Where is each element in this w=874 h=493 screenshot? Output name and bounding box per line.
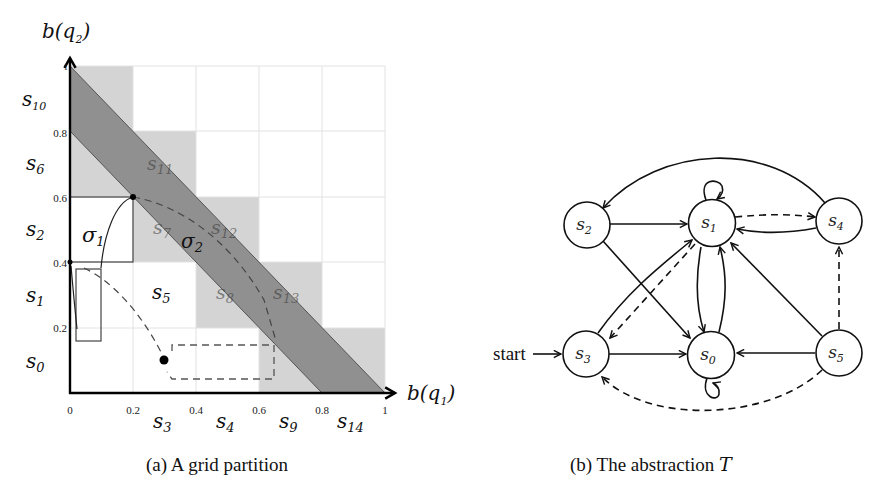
caption-b: (b) The abstraction T	[570, 453, 733, 476]
sigma1-region	[70, 197, 133, 262]
y-tick-0.4: 0.4	[53, 257, 67, 269]
label-s6: s6	[26, 151, 45, 177]
target-region	[167, 345, 274, 379]
abstraction-graph	[533, 158, 862, 410]
edge-s1-s4	[735, 215, 815, 217]
inner-state-labels: s11 s7 s12 s8 s13	[147, 152, 299, 306]
edge-s1-s3	[610, 244, 695, 338]
caption-a: (a) A grid partition	[146, 454, 288, 476]
label-s9: s9	[279, 409, 298, 435]
y-axis-label: b(q2)	[42, 19, 90, 46]
label-s4: s4	[216, 409, 235, 435]
x-tick-0.2: 0.2	[126, 404, 140, 416]
edge-s1-s0	[697, 247, 704, 332]
x-tick-0: 0	[67, 404, 73, 416]
state-dot	[160, 356, 169, 365]
x-tick-0.8: 0.8	[315, 404, 329, 416]
edge-s3-s1	[598, 240, 692, 333]
label-s1: s1	[26, 283, 45, 309]
y-tick-0.8: 0.8	[53, 127, 67, 139]
edge-s0-self	[705, 378, 719, 398]
y-ticks: 1 0.8 0.6 0.4 0.2	[53, 62, 68, 334]
y-tick-0.6: 0.6	[53, 192, 67, 204]
x-tick-0.4: 0.4	[189, 404, 203, 416]
edge-s5-s1	[731, 243, 822, 336]
label-s10: s10	[22, 87, 46, 113]
left-state-labels: s10 s6 s2 s1 s0	[22, 87, 46, 375]
edge-s4-s1	[737, 228, 816, 232]
label-s2: s2	[26, 217, 45, 243]
y-tick-1: 1	[64, 62, 69, 72]
edge-s0-s1	[719, 247, 725, 332]
label-sigma1: σ1	[82, 223, 105, 249]
label-s5: s5	[152, 280, 171, 306]
x-tick-0.6: 0.6	[252, 404, 266, 416]
label-s14: s14	[337, 409, 364, 435]
grid-partition-plot: 1 0.8 0.6 0.4 0.2 0 0.2 0.4 0.6 0.8 1 b(…	[22, 19, 455, 476]
start-label: start	[493, 343, 526, 364]
x-tick-1: 1	[382, 404, 388, 416]
x-axis-label: b(q1)	[407, 381, 455, 408]
label-s0: s0	[26, 349, 45, 375]
sigma1-trajectory	[71, 197, 133, 329]
figure-canvas: 1 0.8 0.6 0.4 0.2 0 0.2 0.4 0.6 0.8 1 b(…	[0, 0, 874, 493]
corner-dot	[130, 194, 136, 200]
y-tick-0.2: 0.2	[53, 322, 67, 334]
initial-region	[76, 269, 101, 341]
edge-s2-s0	[603, 241, 690, 338]
label-s3: s3	[153, 409, 172, 435]
edge-s1-self	[704, 181, 723, 200]
